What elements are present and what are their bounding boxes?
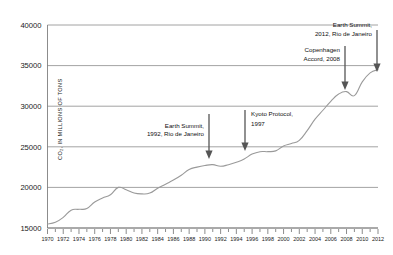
x-tick-label: 2012 [372,236,384,242]
annotation-line-2: Accord, 2008 [304,55,341,62]
y-tick-label: 40000 [20,21,41,30]
x-tick-label: 1974 [73,236,85,242]
x-tick-label: 1980 [120,236,132,242]
y-tick-label: 35000 [20,61,41,70]
annotation-line-1: Copenhagen [305,46,341,53]
y-axis-title: CO₂, IN MILLIONS OF TONS [57,78,63,160]
chart-canvas: 400003500030000250002000015000 197019721… [0,0,393,255]
x-tick-label: 1994 [230,236,242,242]
annotation-line-1: Earth Summit, [165,122,204,129]
y-tick-label: 20000 [20,183,41,192]
x-tick-label: 2008 [340,236,352,242]
x-tick-label: 2002 [293,236,305,242]
annotation-line-2: 1992, Rio de Janeiro [147,130,205,137]
x-tick-label: 2004 [309,236,321,242]
x-tick-label: 1986 [167,236,179,242]
x-tick-label: 1996 [246,236,258,242]
x-tick-label: 1982 [136,236,148,242]
x-tick-label: 1988 [183,236,195,242]
x-tick-label: 1984 [152,236,164,242]
x-tick-label: 2006 [325,236,337,242]
annotation-line-1: Earth Summit, [333,21,372,28]
x-tick-label: 1990 [199,236,211,242]
x-tick-label: 1970 [41,236,53,242]
annotation-line-2: 2012, Rio de Janeiro [315,30,373,37]
x-tick-label: 1978 [104,236,116,242]
y-tick-label: 25000 [20,143,41,152]
co2-emissions-chart: 400003500030000250002000015000 197019721… [0,0,393,255]
x-tick-label: 1998 [262,236,274,242]
annotation-line-2: 1997 [251,120,265,127]
x-tick-label: 2000 [277,236,289,242]
x-tick-label: 1972 [57,236,69,242]
y-tick-label: 30000 [20,102,41,111]
x-tick-label: 1976 [89,236,101,242]
x-tick-label: 2010 [356,236,368,242]
x-tick-label: 1992 [214,236,226,242]
annotation-line-1: Kyoto Protocol, [251,110,293,117]
y-tick-label: 15000 [20,224,41,233]
